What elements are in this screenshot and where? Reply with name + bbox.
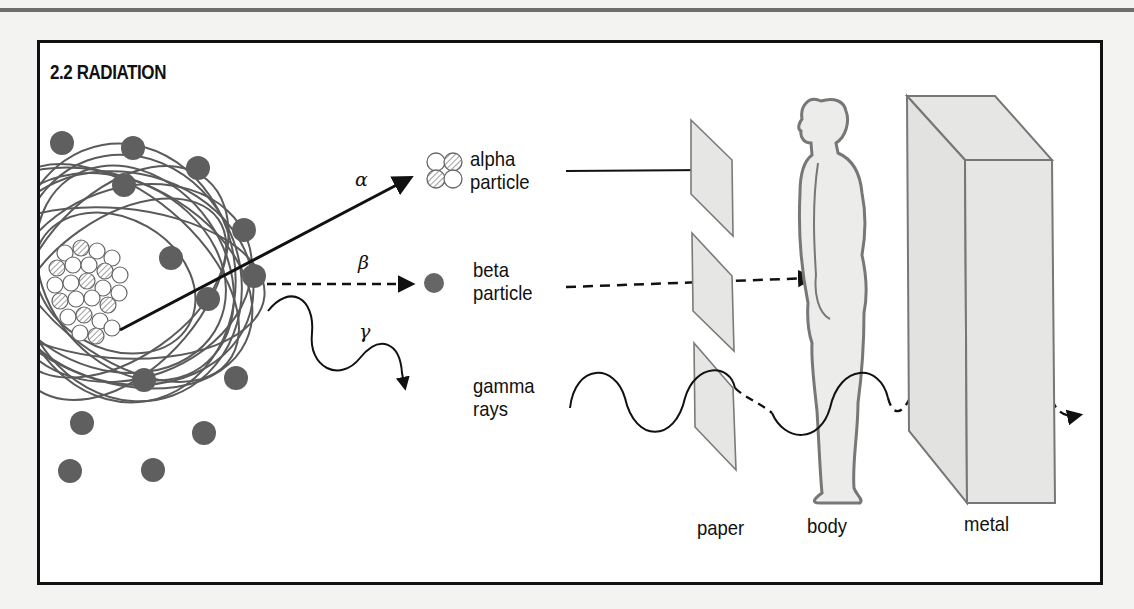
gamma-path-arrow: [268, 296, 405, 388]
body-label: body: [807, 514, 847, 537]
alpha-label: alpha particle: [470, 147, 530, 193]
human-body-icon: [799, 99, 866, 503]
metal-block-icon: [907, 96, 1055, 503]
paper-barriers: [691, 120, 736, 470]
paper-label: paper: [697, 516, 744, 539]
figure-frame: 2.2 RADIATION: [37, 40, 1103, 585]
beta-to-body-arrow: [566, 278, 812, 287]
radiation-diagram: [40, 43, 1103, 585]
alpha-symbol: α: [355, 168, 368, 190]
alpha-particle-icon: [427, 153, 462, 188]
metal-label: metal: [964, 512, 1009, 535]
gamma-wave-solid: [570, 370, 956, 435]
beta-label: beta particle: [473, 258, 533, 304]
beta-symbol: β: [358, 251, 369, 273]
beta-particle-icon: [424, 273, 444, 293]
gamma-label: gamma rays: [473, 374, 535, 420]
gamma-symbol: γ: [359, 320, 370, 342]
page-top-rule: [0, 8, 1134, 12]
alpha-to-paper-arrow: [566, 170, 710, 171]
nucleus-icon: [47, 240, 128, 344]
